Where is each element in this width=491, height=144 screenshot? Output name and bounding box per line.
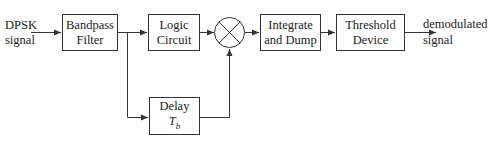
delay-line1: Delay — [160, 99, 190, 114]
integrate-dump-line2: and Dump — [264, 33, 316, 48]
bandpass-filter-line2: Filter — [76, 33, 103, 48]
output-label-line1: demodulated — [423, 17, 488, 32]
threshold-device-line2: Device — [353, 33, 388, 48]
threshold-device-line1: Threshold — [345, 18, 396, 33]
logic-circuit-line1: Logic — [159, 18, 188, 33]
delay-symbol-t: T — [169, 114, 176, 128]
input-label: DPSK signal — [5, 18, 37, 48]
threshold-device-block: Threshold Device — [336, 14, 405, 51]
integrate-dump-line1: Integrate — [268, 18, 312, 33]
logic-circuit-block: Logic Circuit — [148, 14, 200, 51]
output-label-line2: signal — [423, 32, 488, 48]
arrow-delay-to-multiplier — [200, 49, 230, 118]
delay-line2: Tb — [169, 114, 180, 134]
integrate-dump-block: Integrate and Dump — [260, 14, 321, 51]
input-label-line2: signal — [5, 33, 37, 48]
dpsk-demodulator-diagram: DPSK signal Bandpass Filter Logic Circui… — [0, 0, 491, 144]
bandpass-filter-block: Bandpass Filter — [62, 14, 118, 51]
delay-symbol-subscript: b — [176, 120, 181, 130]
logic-circuit-line2: Circuit — [157, 33, 192, 48]
bandpass-filter-line1: Bandpass — [66, 18, 114, 33]
arrow-bpf-to-delay — [128, 33, 149, 118]
output-label: demodulated signal — [423, 17, 488, 48]
delay-block: Delay Tb — [149, 97, 200, 135]
input-label-line1: DPSK — [5, 18, 37, 33]
